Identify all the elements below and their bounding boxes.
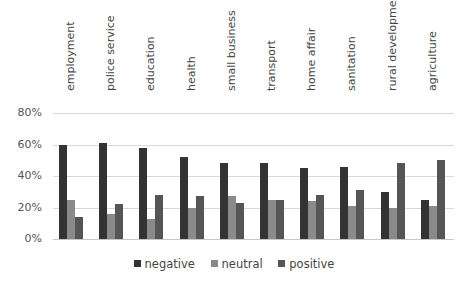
legend: negative neutral positive [0,256,468,271]
legend-label: neutral [222,257,263,271]
x-tick-label: sanitation [345,36,358,91]
bar-neutral [429,206,437,239]
x-axis-baseline [53,239,454,240]
bar-negative [260,163,268,239]
legend-swatch-icon [211,260,218,267]
y-tick-label: 40% [0,169,42,182]
x-tick-label: transport [265,40,278,91]
bar-negative [180,157,188,239]
x-tick-label: employment [64,21,77,91]
legend-item-neutral: neutral [211,257,263,271]
bar-negative [220,163,228,239]
y-tick-label: 80% [0,106,42,119]
bar-neutral [67,200,75,239]
bar-neutral [308,201,316,239]
bar-neutral [268,200,276,239]
y-tick-label: 20% [0,201,42,214]
grouped-bar-chart: 0%20%40%60%80% employmentpolice servicee… [0,0,468,287]
bar-positive [196,196,204,239]
x-tick-label: small business [225,10,238,91]
x-tick-label: education [144,36,157,91]
gridline [53,145,454,146]
legend-label: negative [145,257,195,271]
x-tick-label: home affair [305,28,318,91]
bar-neutral [147,219,155,239]
bar-positive [397,163,405,239]
x-tick-label: rural development [386,0,399,91]
bar-negative [300,168,308,239]
x-tick-label: police service [104,15,117,91]
bar-positive [115,204,123,239]
bar-neutral [348,206,356,239]
bar-positive [276,200,284,239]
bar-negative [99,143,107,239]
legend-swatch-icon [134,260,141,267]
bar-neutral [228,196,236,239]
bar-neutral [107,214,115,239]
gridline [53,113,454,114]
x-tick-label: agriculture [426,31,439,91]
bar-positive [155,195,163,239]
bar-negative [139,148,147,239]
bar-negative [381,192,389,239]
bar-neutral [188,208,196,240]
bar-positive [437,160,445,239]
bar-positive [75,217,83,239]
legend-swatch-icon [278,260,285,267]
legend-item-positive: positive [278,257,334,271]
bar-positive [316,195,324,239]
gridline [53,176,454,177]
x-tick-label: health [185,56,198,91]
bar-negative [340,167,348,239]
y-tick-label: 60% [0,138,42,151]
bar-negative [59,145,67,240]
legend-label: positive [289,257,334,271]
bar-negative [421,200,429,239]
bar-positive [356,190,364,239]
y-tick-label: 0% [0,232,42,245]
legend-item-negative: negative [134,257,195,271]
bar-neutral [389,208,397,240]
bar-positive [236,203,244,239]
